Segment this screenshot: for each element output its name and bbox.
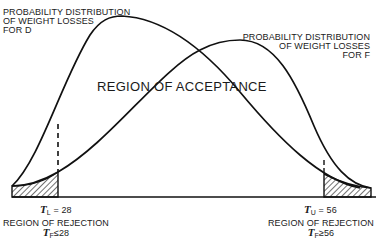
rejection-right-condition: ≥56 bbox=[319, 228, 334, 238]
rejection-left-title: REGION OF REJECTION bbox=[3, 219, 109, 228]
upper-threshold-value: = 56 bbox=[316, 205, 337, 215]
distribution-f-label: PROBABILITY DISTRIBUTION OF WEIGHT LOSSE… bbox=[243, 33, 370, 60]
lower-threshold-label: TL = 28 bbox=[40, 205, 72, 217]
rejection-right-title: REGION OF REJECTION bbox=[268, 219, 374, 228]
rejection-right-label: REGION OF REJECTION TF≥56 bbox=[268, 219, 374, 240]
upper-threshold-symbol: T bbox=[304, 203, 311, 215]
curve-distribution-f bbox=[12, 40, 371, 188]
rejection-left-condition: ≤28 bbox=[54, 228, 69, 238]
distribution-f-line3: FOR F bbox=[243, 51, 370, 60]
acceptance-region-label: REGION OF ACCEPTANCE bbox=[97, 80, 267, 93]
rejection-left-symbol: T bbox=[43, 226, 50, 238]
lower-threshold-value: = 28 bbox=[51, 205, 72, 215]
distribution-d-line3: FOR D bbox=[3, 26, 130, 35]
rejection-right-symbol: T bbox=[308, 226, 315, 238]
rejection-left-label: REGION OF REJECTION TF≤28 bbox=[3, 219, 109, 240]
distribution-d-label: PROBABILITY DISTRIBUTION OF WEIGHT LOSSE… bbox=[3, 8, 130, 35]
upper-threshold-label: TU = 56 bbox=[304, 205, 337, 217]
lower-threshold-symbol: T bbox=[40, 203, 47, 215]
